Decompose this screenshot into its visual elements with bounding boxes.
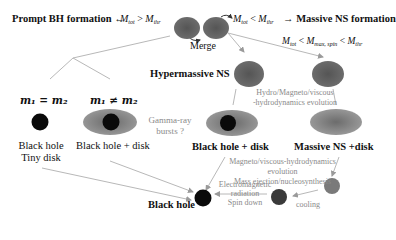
black-hole-final-icon bbox=[195, 190, 212, 207]
black-hole-left-icon bbox=[103, 114, 120, 131]
bh-tiny-disk-label: Black hole Tiny disk bbox=[18, 140, 64, 164]
condition-spin: Mtot < Mmax, spin < Mthr bbox=[282, 36, 362, 47]
black-hole-final-label: Black hole bbox=[148, 199, 195, 210]
merge-label: Merge bbox=[190, 40, 216, 51]
massive-ns-disk-label: Massive NS +disk bbox=[294, 141, 374, 152]
equal-mass-label: m₁ = m₂ bbox=[20, 94, 68, 106]
black-hole-tiny-disk-icon bbox=[32, 114, 49, 131]
condition-prompt: Mtot > Mthr bbox=[120, 13, 161, 25]
massive-ns-formation-label: → Massive NS formation bbox=[283, 13, 396, 24]
bh-disk-center-label: Black hole + disk bbox=[192, 141, 269, 152]
hydro-evolution-annotation: Hydro/Magneto/viscous -hydrodynamics evo… bbox=[240, 88, 350, 108]
neutron-star-1-icon bbox=[174, 17, 200, 39]
bh-disk-left-label: Black hole + disk bbox=[76, 140, 150, 151]
gamma-ray-bursts-annotation: Gamma-ray bursts ? bbox=[142, 115, 198, 137]
hypermassive-ns-label: Hypermassive NS bbox=[150, 68, 230, 79]
massive-ns-icon bbox=[312, 61, 344, 87]
right-arrow-icon: → bbox=[283, 13, 294, 24]
cooling-annotation: cooling bbox=[296, 200, 320, 210]
black-hole-center-icon bbox=[220, 115, 236, 131]
unequal-mass-label: m₁ ≠ m₂ bbox=[90, 94, 138, 106]
hypermassive-ns-icon bbox=[234, 61, 264, 87]
condition-massive-ns: Mtot < Mthr bbox=[233, 13, 274, 25]
spin-down-annotation: Spin down bbox=[214, 198, 276, 208]
neutron-star-2-icon bbox=[203, 17, 229, 39]
massive-ns-disk-icon bbox=[310, 109, 362, 135]
massive-ns-formation-text: Massive NS formation bbox=[296, 13, 396, 24]
prompt-bh-text: Prompt BH formation bbox=[12, 13, 112, 24]
orbit-arrow-icon bbox=[221, 15, 232, 18]
prompt-bh-label: Prompt BH formation ← bbox=[12, 13, 125, 24]
em-radiation-annotation: Electromagnetic radiation bbox=[214, 180, 276, 198]
